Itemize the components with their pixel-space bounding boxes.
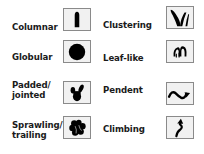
padded-jointed-icon [64,82,90,103]
padded-jointed-box [63,81,91,104]
label-leaf-like: Leaf-like [103,53,144,63]
pendent-box [166,82,194,105]
climbing-box [166,116,194,139]
leaf-like-box [166,40,194,63]
clustering-icon [167,7,193,28]
pendent-icon [167,83,193,104]
leaf-like-icon [167,41,193,62]
globular-box [63,40,91,63]
label-sprawling-trailing: Sprawling/ [12,120,63,130]
climbing-icon [167,117,193,138]
label-pendent: Pendent [103,85,143,95]
columnar-box [63,8,91,31]
globular-icon [64,41,90,62]
columnar-icon [64,9,90,30]
label-climbing: Climbing [103,124,145,134]
label-sprawling-trailing-line2: trailing [12,130,46,140]
label-globular: Globular [12,52,52,62]
sprawling-trailing-box [63,116,91,139]
clustering-box [166,6,194,29]
label-padded-jointed-line2: jointed [12,90,45,100]
label-padded-jointed: Padded/ [12,80,51,90]
sprawling-trailing-icon [64,117,90,138]
label-clustering: Clustering [103,20,152,30]
label-columnar: Columnar [12,22,58,32]
